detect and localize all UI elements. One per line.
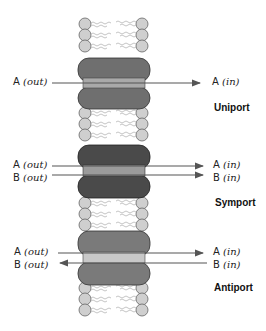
lipid-bilayer-top <box>79 18 148 52</box>
symport-title: Symport <box>215 197 256 208</box>
lipid-bilayer-upper-middle <box>79 107 148 141</box>
antiport-label-b-in: B (in) <box>213 259 241 271</box>
lipid-bilayer-lower-middle <box>79 197 148 231</box>
uniport-label-a-in: A (in) <box>212 76 239 88</box>
symport-protein <box>78 145 150 198</box>
lipid-bilayer-bottom <box>79 282 148 316</box>
antiport-label-b-out: B (out) <box>14 259 48 271</box>
symport-label-b-out: B (out) <box>13 172 47 184</box>
uniport-title: Uniport <box>214 102 250 113</box>
antiport-protein <box>78 231 150 285</box>
antiport-title: Antiport <box>214 282 253 293</box>
symport-label-a-in: A (in) <box>213 159 240 171</box>
uniport-label-a-out: A (out) <box>13 76 47 88</box>
symport-label-a-out: A (out) <box>13 159 47 171</box>
antiport-label-a-out: A (out) <box>14 246 48 258</box>
antiport-label-a-in: A (in) <box>213 246 240 258</box>
symport-label-b-in: B (in) <box>213 172 241 184</box>
